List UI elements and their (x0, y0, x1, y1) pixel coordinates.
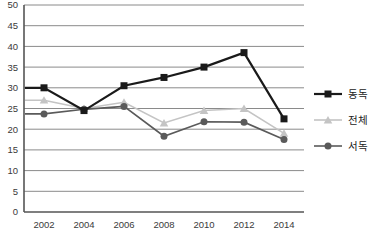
y-tick-label-45: 45 (7, 20, 18, 31)
series-west-germany-marker-2002 (41, 110, 48, 117)
y-tick-label-10: 10 (7, 165, 18, 176)
series-west-germany-marker-2006 (121, 103, 128, 110)
legend-label-west-germany: 서독 (348, 140, 368, 152)
legend-item-total: 전체 (314, 114, 368, 126)
line-chart: 0510152025303540455020022004200620082010… (0, 0, 377, 239)
x-tick-label-2002: 2002 (33, 219, 54, 230)
series-east-germany-marker-2010 (201, 64, 208, 71)
triangle-marker-icon (314, 114, 342, 126)
x-tick-label-2004: 2004 (73, 219, 94, 230)
series-west-germany-marker-2010 (201, 118, 208, 125)
x-tick-label-2006: 2006 (113, 219, 134, 230)
legend: 동독전체서독 (314, 88, 368, 152)
y-tick-label-20: 20 (7, 124, 18, 135)
legend-label-total: 전체 (348, 114, 368, 126)
x-tick-label-2012: 2012 (233, 219, 254, 230)
series-east-germany-marker-2012 (241, 49, 248, 56)
legend-label-east-germany: 동독 (348, 88, 368, 100)
series-east-germany-marker-2004 (81, 107, 88, 114)
series-east-germany-marker-2008 (161, 74, 168, 81)
series-east-germany-marker-2014 (281, 115, 288, 122)
circle-marker-icon (314, 140, 342, 152)
y-tick-label-25: 25 (7, 103, 18, 114)
series-west-germany-marker-2008 (161, 133, 168, 140)
y-tick-label-40: 40 (7, 41, 18, 52)
y-tick-label-15: 15 (7, 144, 18, 155)
y-tick-label-35: 35 (7, 62, 18, 73)
square-marker-icon (314, 88, 342, 100)
y-tick-label-5: 5 (13, 186, 18, 197)
series-east-germany-marker-2002 (41, 84, 48, 91)
series-west-germany-marker-2012 (241, 119, 248, 126)
legend-item-east-germany: 동독 (314, 88, 368, 100)
legend-item-west-germany: 서독 (314, 140, 368, 152)
y-tick-label-50: 50 (7, 0, 18, 10)
y-tick-label-30: 30 (7, 82, 18, 93)
series-east-germany-marker-2006 (121, 82, 128, 89)
series-total-marker-2014 (280, 129, 289, 136)
x-tick-label-2008: 2008 (153, 219, 174, 230)
x-tick-label-2014: 2014 (273, 219, 294, 230)
series-west-germany-marker-2014 (281, 136, 288, 143)
x-tick-label-2010: 2010 (193, 219, 214, 230)
y-tick-label-0: 0 (13, 206, 18, 217)
